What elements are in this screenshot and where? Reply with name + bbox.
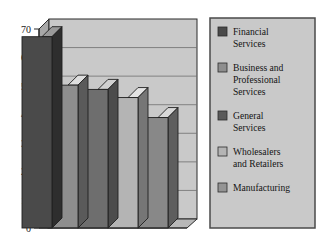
legend-label-wholesalers-line1: Wholesalers [233, 146, 281, 157]
legend-label-business-line3: Services [233, 86, 266, 97]
bar-side-general-services [108, 79, 118, 228]
bar-side-business [78, 75, 88, 228]
bar-side-manufacturing [168, 108, 178, 228]
legend-swatch-manufacturing [218, 183, 227, 192]
bar-side-wholesalers [138, 88, 148, 228]
legend-swatch-wholesalers-and-retailers [218, 147, 227, 156]
chart-canvas: 70 60 50 40 30 20 10 0 [0, 0, 329, 249]
legend-label-business-line1: Business and [233, 62, 284, 73]
legend-label-manufacturing-line1: Manufacturing [233, 182, 290, 193]
legend-label-general-services-line1: General [233, 110, 264, 121]
legend-label-business-line2: Professional [233, 74, 281, 85]
bar-financial-services [22, 27, 62, 228]
legend: Financial Services Business and Professi… [210, 18, 315, 228]
legend-swatch-business-and-professional-services [218, 63, 227, 72]
bar-chart-figure: 70 60 50 40 30 20 10 0 [0, 0, 329, 249]
legend-label-financial-services-line2: Services [233, 38, 266, 49]
legend-swatch-financial-services [218, 27, 227, 36]
y-tick-label-70: 70 [21, 24, 31, 35]
bar-side-financial-services [52, 27, 62, 228]
legend-swatch-general-services [218, 111, 227, 120]
legend-label-general-services-line2: Services [233, 122, 266, 133]
legend-label-financial-services-line1: Financial [233, 26, 269, 37]
legend-label-wholesalers-line2: and Retailers [233, 158, 284, 169]
bar-front-financial-services [22, 37, 52, 228]
